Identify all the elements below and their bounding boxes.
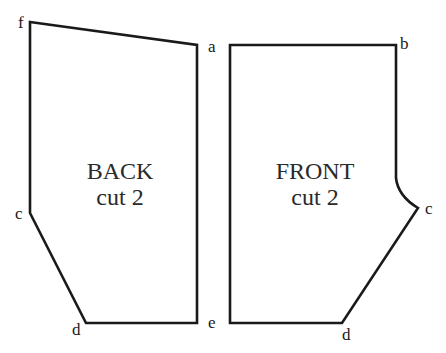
- back-point-e-label: e: [208, 314, 216, 331]
- front-point-b-label: b: [400, 35, 409, 52]
- back-point-d-label: d: [72, 321, 81, 338]
- front-cut-instruction: cut 2: [255, 184, 375, 210]
- back-point-f-label: f: [18, 14, 24, 31]
- back-piece-label: BACK cut 2: [60, 158, 180, 210]
- back-point-c-label: c: [15, 205, 23, 222]
- front-title: FRONT: [255, 158, 375, 184]
- back-title: BACK: [60, 158, 180, 184]
- back-cut-instruction: cut 2: [60, 184, 180, 210]
- back-point-a-label: a: [208, 38, 216, 55]
- front-point-d-label: d: [342, 326, 351, 343]
- front-point-c-label: c: [425, 200, 433, 217]
- front-piece-label: FRONT cut 2: [255, 158, 375, 210]
